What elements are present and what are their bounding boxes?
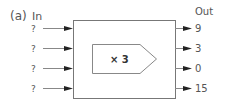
in-header: In xyxy=(32,10,42,23)
figure-label: (a) xyxy=(10,9,27,23)
input-row-1: ? xyxy=(31,24,73,34)
arrow-right-icon xyxy=(64,86,73,91)
function-machine-diagram: (a) In Out × 3 ? ? ? ? xyxy=(0,0,232,105)
operation-label: × 3 xyxy=(110,54,129,65)
input-value: ? xyxy=(31,84,36,94)
input-row-3: ? xyxy=(31,64,73,74)
arrow-right-icon xyxy=(183,86,192,91)
output-arrows: 9 3 0 15 xyxy=(175,23,208,94)
output-row-1: 9 xyxy=(175,23,201,34)
input-row-2: ? xyxy=(31,44,73,54)
input-value: ? xyxy=(31,64,36,74)
input-value: ? xyxy=(31,44,36,54)
output-row-2: 3 xyxy=(175,43,201,54)
output-row-4: 15 xyxy=(175,83,208,94)
arrow-right-icon xyxy=(183,46,192,51)
output-value: 9 xyxy=(195,23,201,34)
input-value: ? xyxy=(31,24,36,34)
input-arrows: ? ? ? ? xyxy=(31,24,73,94)
output-value: 15 xyxy=(195,83,208,94)
arrow-right-icon xyxy=(183,66,192,71)
arrow-right-icon xyxy=(64,46,73,51)
arrow-right-icon xyxy=(64,66,73,71)
input-row-4: ? xyxy=(31,84,73,94)
output-row-3: 0 xyxy=(175,63,201,74)
output-value: 0 xyxy=(195,63,201,74)
arrow-right-icon xyxy=(64,26,73,31)
out-header: Out xyxy=(195,6,213,17)
arrow-right-icon xyxy=(183,26,192,31)
output-value: 3 xyxy=(195,43,201,54)
